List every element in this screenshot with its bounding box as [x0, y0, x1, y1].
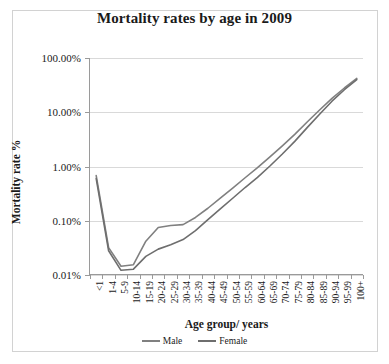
x-axis-tick-label: 70-74 — [281, 281, 291, 303]
x-axis-tick — [301, 275, 302, 279]
x-axis-tick-label: 55-59 — [244, 281, 254, 303]
y-axis-tick-label: 0.10% — [53, 215, 81, 227]
x-axis-tick — [264, 275, 265, 279]
x-axis-tick — [363, 275, 364, 279]
x-axis-tick — [177, 275, 178, 279]
x-axis-tick-label: 45-49 — [219, 281, 229, 303]
x-axis-tick-label: 15-19 — [145, 281, 155, 303]
x-axis-tick-label: 90-94 — [331, 281, 341, 303]
x-axis-tick-label: 20-24 — [157, 281, 167, 303]
x-axis-tick — [276, 275, 277, 279]
y-axis-tick-label: 100.00% — [42, 52, 81, 64]
legend-swatch-icon — [142, 340, 160, 342]
x-axis-tick — [289, 275, 290, 279]
x-axis-tick-label: 25-29 — [170, 281, 180, 303]
x-axis-tick — [102, 275, 103, 279]
legend-item-female[interactable]: Female — [198, 336, 247, 346]
x-axis-tick-label: 1-4 — [108, 281, 118, 294]
series-line-male — [96, 78, 357, 266]
x-axis-tick — [127, 275, 128, 279]
x-axis-tick-label: 50-54 — [232, 281, 242, 303]
y-axis-title: Mortality rate % — [10, 140, 22, 224]
x-axis-tick-label: 30-34 — [182, 281, 192, 303]
x-axis-tick-label: 65-69 — [269, 281, 279, 303]
plot-area: 0.01%0.10%1.00%10.00%100.00% <11-45-910-… — [90, 58, 363, 275]
legend-item-male[interactable]: Male — [142, 336, 183, 346]
series-line-female — [96, 80, 357, 271]
x-axis-tick-label: 5-9 — [120, 281, 130, 294]
legend-label: Female — [219, 336, 247, 346]
x-axis-tick-label: 40-44 — [207, 281, 217, 303]
x-axis-tick — [90, 275, 91, 279]
x-axis-title: Age group/ years — [90, 318, 363, 330]
x-axis-tick — [164, 275, 165, 279]
x-axis-tick — [239, 275, 240, 279]
x-axis-tick — [326, 275, 327, 279]
x-axis-tick-label: 60-64 — [257, 281, 267, 303]
y-axis-tick-label: 1.00% — [53, 161, 81, 173]
x-axis-tick-label: 75-79 — [294, 281, 304, 303]
legend-label: Male — [163, 336, 183, 346]
x-axis-tick — [115, 275, 116, 279]
x-axis-tick-label: 85-89 — [319, 281, 329, 303]
x-axis-tick — [202, 275, 203, 279]
x-axis-tick-label: 95-99 — [343, 281, 353, 303]
x-axis-tick — [189, 275, 190, 279]
series-layer — [90, 58, 363, 275]
y-axis-tick-label: 0.01% — [53, 269, 81, 281]
y-axis-tick-label: 10.00% — [47, 106, 81, 118]
x-axis-tick — [140, 275, 141, 279]
x-axis-tick — [338, 275, 339, 279]
x-axis-tick — [313, 275, 314, 279]
x-axis-tick-label: 100+ — [356, 281, 366, 301]
x-axis-tick — [351, 275, 352, 279]
x-axis-tick — [214, 275, 215, 279]
x-axis-tick — [152, 275, 153, 279]
x-axis-tick — [251, 275, 252, 279]
x-axis-tick — [227, 275, 228, 279]
legend-swatch-icon — [198, 340, 216, 342]
chart-title: Mortality rates by age in 2009 — [0, 10, 389, 27]
x-axis-tick-label: <1 — [95, 281, 105, 291]
x-axis-tick-label: 80-84 — [306, 281, 316, 303]
chart-legend: MaleFemale — [0, 336, 389, 346]
x-axis-tick-label: 10-14 — [132, 281, 142, 303]
x-axis-tick-label: 35-39 — [194, 281, 204, 303]
